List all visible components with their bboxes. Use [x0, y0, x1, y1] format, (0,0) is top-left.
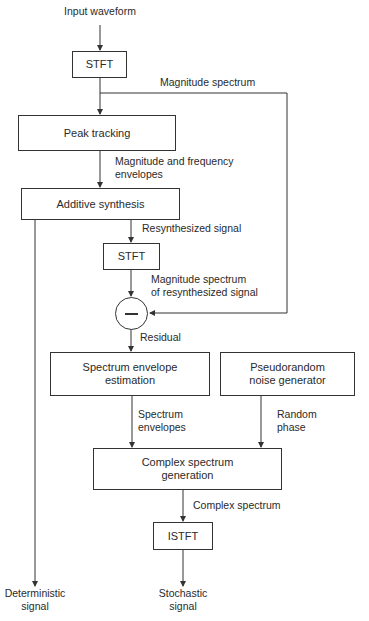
- subtract-node: [115, 297, 148, 330]
- mag-freq-envelopes-line1: Magnitude and frequency: [115, 155, 234, 168]
- spectrum-envelope-line1: Spectrum envelope: [83, 361, 178, 374]
- additive-synthesis-box: Additive synthesis: [21, 188, 180, 220]
- spectrum-envelopes-line2: envelopes: [138, 421, 186, 434]
- random-phase-label: Random phase: [277, 408, 317, 434]
- mag-spectrum-resynth-label: Magnitude spectrum of resynthesized sign…: [151, 273, 258, 299]
- random-phase-line1: Random: [277, 408, 317, 421]
- stft-box-1-label: STFT: [86, 58, 114, 71]
- complex-gen-line2: generation: [162, 469, 214, 482]
- spectrum-envelopes-line1: Spectrum: [138, 408, 186, 421]
- input-waveform-label: Input waveform: [64, 5, 136, 18]
- peak-tracking-label: Peak tracking: [64, 127, 131, 140]
- istft-box: ISTFT: [153, 522, 213, 550]
- residual-label: Residual: [140, 331, 181, 344]
- pseudorandom-line1: Pseudorandom: [250, 361, 325, 374]
- minus-icon: [125, 313, 138, 315]
- complex-spectrum-generation-box: Complex spectrum generation: [93, 448, 282, 490]
- stft-box-2-label: STFT: [118, 250, 146, 263]
- spectrum-envelope-line2: estimation: [105, 374, 155, 387]
- deterministic-line2: signal: [5, 600, 66, 613]
- pseudorandom-noise-generator-box: Pseudorandom noise generator: [220, 352, 355, 396]
- complex-spectrum-label: Complex spectrum: [193, 499, 281, 512]
- istft-label: ISTFT: [168, 530, 199, 543]
- stochastic-line1: Stochastic: [159, 587, 207, 600]
- stochastic-line2: signal: [159, 600, 207, 613]
- magnitude-spectrum-label: Magnitude spectrum: [160, 76, 255, 89]
- stochastic-signal-label: Stochastic signal: [159, 587, 207, 613]
- spectrum-envelopes-label: Spectrum envelopes: [138, 408, 186, 434]
- mag-spectrum-resynth-line2: of resynthesized signal: [151, 286, 258, 299]
- spectrum-envelope-estimation-box: Spectrum envelope estimation: [50, 352, 210, 396]
- random-phase-line2: phase: [277, 421, 317, 434]
- complex-gen-line1: Complex spectrum: [142, 456, 234, 469]
- peak-tracking-box: Peak tracking: [18, 115, 176, 151]
- deterministic-line1: Deterministic: [5, 587, 66, 600]
- deterministic-signal-label: Deterministic signal: [5, 587, 66, 613]
- resynthesized-signal-label: Resynthesized signal: [142, 222, 241, 235]
- pseudorandom-line2: noise generator: [249, 374, 325, 387]
- mag-freq-envelopes-line2: envelopes: [115, 168, 234, 181]
- additive-synthesis-label: Additive synthesis: [56, 198, 144, 211]
- stft-box-2: STFT: [103, 243, 160, 270]
- mag-spectrum-resynth-line1: Magnitude spectrum: [151, 273, 258, 286]
- stft-box-1: STFT: [72, 51, 127, 78]
- mag-freq-envelopes-label: Magnitude and frequency envelopes: [115, 155, 234, 181]
